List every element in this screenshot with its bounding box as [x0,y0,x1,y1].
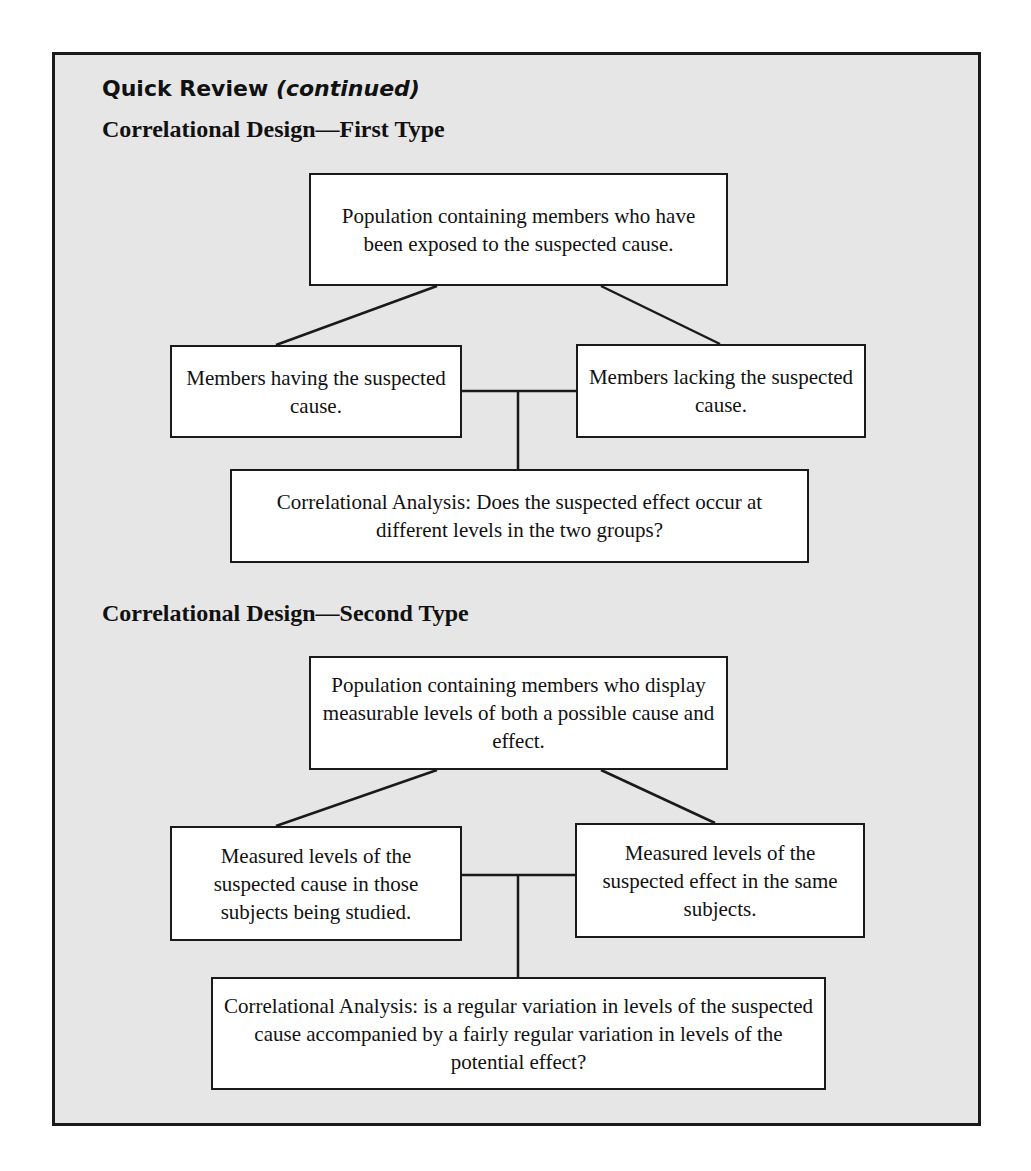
node-analysis-second-type: Correlational Analysis: is a regular var… [211,977,826,1090]
section-heading-second-type: Correlational Design—Second Type [102,600,469,627]
node-members-having-cause: Members having the suspected cause. [170,345,462,438]
panel-title-suffix: (continued) [276,76,420,101]
node-members-lacking-cause: Members lacking the suspected cause. [576,344,866,438]
panel-title-text: Quick Review [102,76,268,101]
node-population-measurable: Population containing members who displa… [309,656,728,770]
node-population-exposed: Population containing members who have b… [309,173,728,286]
node-measured-effect-levels: Measured levels of the suspected effect … [575,823,865,938]
node-measured-cause-levels: Measured levels of the suspected cause i… [170,826,462,941]
node-analysis-first-type: Correlational Analysis: Does the suspect… [230,469,809,563]
section-heading-first-type: Correlational Design—First Type [102,116,445,143]
panel-title: Quick Review (continued) [102,76,420,101]
